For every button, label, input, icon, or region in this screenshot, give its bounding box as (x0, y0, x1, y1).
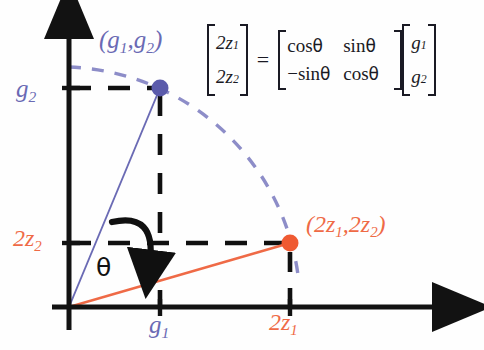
matrix-cell-r1c2: sinθ (339, 35, 393, 57)
equals-sign: = (248, 47, 278, 73)
point-2z-marker (282, 235, 299, 252)
point-g-marker (152, 80, 169, 97)
point-label-2z: (2z1,2z2) (306, 212, 386, 240)
lhs-row-2: 2z2 (214, 60, 241, 94)
vector-g (69, 88, 160, 307)
equation-lhs-vector: 2z1 2z2 (207, 24, 248, 96)
matrix-row-1: cosθ sinθ (285, 32, 395, 60)
angle-label-theta: θ (96, 255, 111, 280)
matrix-cell-r2c2: cosθ (339, 63, 393, 85)
matrix-cell-r1c1: cosθ (287, 35, 339, 57)
axis-label-g2: g2 (16, 76, 36, 104)
point-label-g: (g1,g2) (99, 27, 162, 55)
matrix-cell-r2c1: −sinθ (287, 63, 339, 85)
rotation-matrix: cosθ sinθ −sinθ cosθ (278, 30, 402, 90)
matrix-row-2: −sinθ cosθ (285, 60, 395, 88)
axis-label-2z2: 2z2 (13, 226, 42, 254)
rhs-row-1: g1 (409, 26, 428, 60)
equation-rhs-vector: g1 g2 (402, 24, 435, 96)
rhs-row-2: g2 (409, 60, 428, 94)
lhs-row-1: 2z1 (214, 26, 241, 60)
figure-canvas: g2 2z2 g1 2z1 θ (g1,g2) (2z1,2z2) 2z1 2z… (0, 0, 484, 350)
rotation-arc (69, 67, 298, 275)
matrix-equation: 2z1 2z2 = cosθ sinθ −sinθ cosθ g1 g2 (207, 24, 436, 96)
axis-label-g1: g1 (149, 312, 169, 340)
axis-label-2z1: 2z1 (269, 310, 298, 338)
